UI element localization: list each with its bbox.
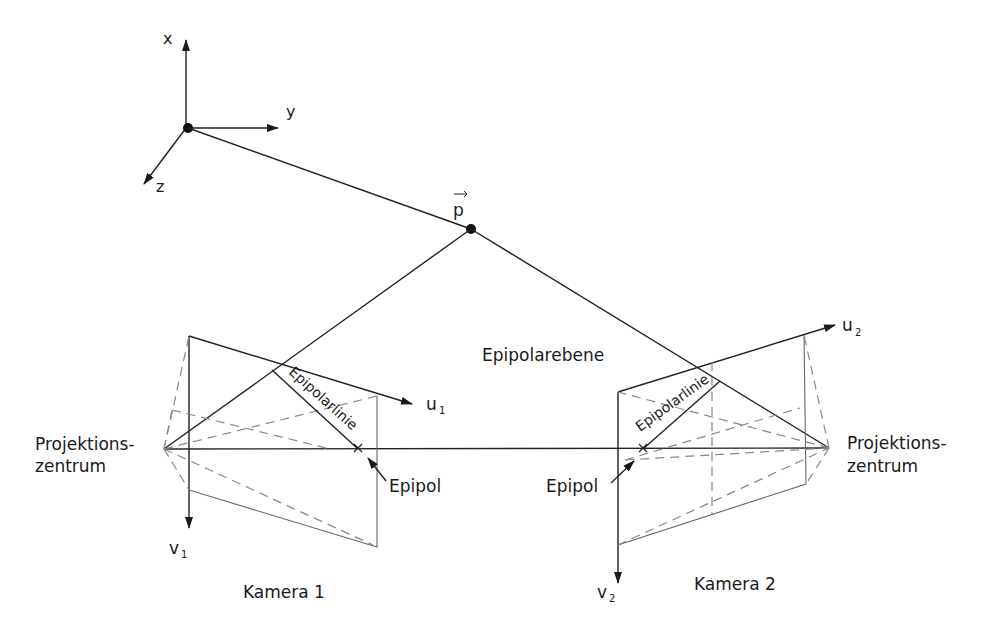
- x-axis-label: x: [163, 29, 172, 48]
- projection-center-1-line2: zentrum: [35, 456, 106, 476]
- y-axis-label: y: [286, 102, 295, 121]
- origin-to-p-line: [188, 128, 471, 229]
- u1-subscript: 1: [439, 405, 445, 416]
- epipolar-line-2-label: Epipolarlinie: [632, 371, 711, 435]
- projection-center-1-line1: Projektions-: [35, 434, 135, 454]
- world-coordinate-system: x y z: [144, 29, 295, 196]
- epipol-1-label: Epipol: [389, 476, 441, 496]
- camera-1-label: Kamera 1: [243, 582, 325, 602]
- epipol-2-label: Epipol: [546, 476, 598, 496]
- point-p: p: [453, 191, 476, 234]
- camera-2-label: Kamera 2: [694, 574, 776, 594]
- epipole-1-mark: [354, 444, 362, 452]
- u2-subscript: 2: [855, 327, 861, 338]
- baseline: [164, 448, 829, 449]
- v2-subscript: 2: [609, 593, 615, 604]
- v2-label: v: [597, 582, 607, 602]
- u2-label: u: [842, 315, 853, 335]
- v1-subscript: 1: [181, 549, 187, 560]
- camera-1: Epipolarlinie Epipol u 1 v 1 Kamera 1 Pr…: [35, 336, 445, 602]
- point-p-label: p: [453, 200, 464, 220]
- u1-label: u: [426, 394, 437, 414]
- u2-axis-arrow: [618, 325, 835, 392]
- camera-2: Epipolarlinie Epipol u 2 v 2 Kamera 2 Pr…: [546, 315, 947, 604]
- ray-left: [164, 229, 471, 449]
- epipolar-plane-label: Epipolarebene: [482, 345, 604, 365]
- epipolar-line-1-label: Epipolarlinie: [286, 363, 361, 433]
- z-axis-label: z: [156, 177, 164, 196]
- v1-label: v: [169, 538, 179, 558]
- epipol-2-arrow: [611, 461, 634, 483]
- z-axis-arrow: [144, 128, 186, 184]
- projection-center-2-line2: zentrum: [847, 456, 918, 476]
- epipolar-diagram: x y z p Epipolarlinie Epipol u: [0, 0, 995, 628]
- projection-center-2-line1: Projektions-: [847, 433, 947, 453]
